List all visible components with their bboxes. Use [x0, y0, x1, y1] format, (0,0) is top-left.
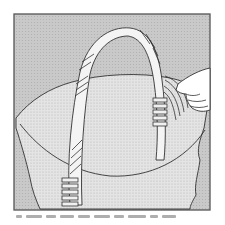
caption-word	[162, 215, 176, 218]
caption-word	[16, 215, 22, 218]
caption	[16, 215, 176, 220]
caption-word	[114, 215, 124, 218]
cane-weave-left	[62, 178, 78, 206]
cane-weave-right	[153, 98, 167, 126]
caption-word	[94, 215, 110, 218]
caption-word	[128, 215, 146, 218]
caption-word	[60, 215, 74, 218]
caption-word	[150, 215, 158, 218]
caption-word	[78, 215, 90, 218]
basket-handle-illustration	[0, 0, 225, 225]
caption-word	[46, 215, 56, 218]
caption-word	[26, 215, 42, 218]
